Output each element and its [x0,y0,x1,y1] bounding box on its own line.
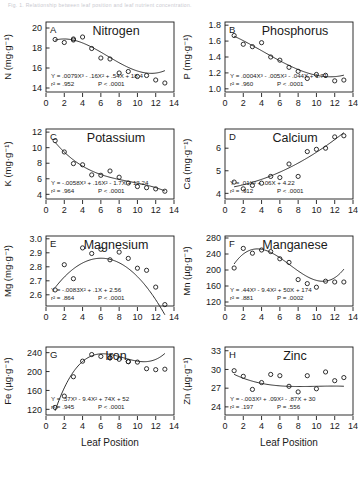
svg-text:P = .556: P = .556 [277,403,301,410]
panel-c-potassium: 468101202468101214CPotassiumK (mg·g⁻¹)Y … [0,123,179,230]
svg-text:0: 0 [222,421,227,431]
svg-text:4: 4 [259,312,264,322]
svg-text:2: 2 [62,312,67,322]
svg-text:2.6: 2.6 [29,290,42,300]
panel-grid: 1416182002468101214ANitrogenN (mg·g⁻¹)Y … [0,16,358,488]
svg-text:12: 12 [151,98,161,108]
svg-text:30: 30 [211,365,221,375]
svg-text:12: 12 [151,312,161,322]
chart-d: 45602468101214DCalciumCa (mg·g⁻¹)Y = .01… [179,123,358,230]
svg-text:2: 2 [62,98,67,108]
svg-text:8: 8 [296,205,301,215]
svg-text:6: 6 [98,421,103,431]
svg-text:4: 4 [259,98,264,108]
svg-text:8: 8 [117,205,122,215]
svg-text:Nitrogen: Nitrogen [92,24,139,38]
svg-text:P < .0001: P < .0001 [98,187,125,194]
panel-f-manganese: 12016020024028002468101214FManganeseMn (… [179,230,358,337]
chart-f: 12016020024028002468101214FManganeseMn (… [179,230,358,337]
panel-e-magnesium: 2.62.72.82.93.002468101214EMagnesiumMg (… [0,230,179,337]
svg-text:Y = .0004X³ - .005X² - .044X +: Y = .0004X³ - .005X² - .044X + 1.71 [230,72,328,79]
svg-text:0: 0 [43,98,48,108]
svg-text:14: 14 [348,312,358,322]
svg-text:Y = -.003X³ + .09X² - .87X + 3: Y = -.003X³ + .09X² - .87X + 30 [230,395,316,402]
svg-text:14: 14 [348,98,358,108]
chart-a: 1416182002468101214ANitrogenN (mg·g⁻¹)Y … [0,16,179,123]
svg-text:10: 10 [311,205,321,215]
svg-text:4: 4 [37,190,42,200]
svg-text:1.2: 1.2 [208,68,221,78]
svg-text:Leaf Position: Leaf Position [260,437,318,448]
svg-text:8: 8 [117,421,122,431]
svg-text:120: 120 [27,405,42,415]
svg-text:2: 2 [241,98,246,108]
svg-text:8: 8 [37,158,42,168]
svg-text:160: 160 [206,281,221,291]
svg-text:Fe (µg·g⁻¹): Fe (µg·g⁻¹) [2,357,13,404]
svg-text:14: 14 [169,205,179,215]
svg-text:8: 8 [296,312,301,322]
chart-g: 12016020024002468101214GIronFe (µg·g⁻¹)Y… [0,341,179,448]
svg-text:24: 24 [211,402,221,412]
svg-text:12: 12 [330,205,340,215]
svg-text:D: D [229,131,236,142]
svg-text:r² = .960: r² = .960 [230,80,254,87]
svg-text:16: 16 [32,63,42,73]
svg-text:F: F [229,238,235,249]
svg-text:4: 4 [80,312,85,322]
svg-text:1.8: 1.8 [208,20,221,30]
svg-text:4: 4 [259,421,264,431]
svg-text:8: 8 [117,98,122,108]
svg-text:P < .0001: P < .0001 [98,294,125,301]
svg-text:240: 240 [206,249,221,259]
svg-text:6: 6 [277,98,282,108]
svg-text:10: 10 [32,143,42,153]
svg-text:120: 120 [206,297,221,307]
panel-g-iron: 12016020024002468101214GIronFe (µg·g⁻¹)Y… [0,341,179,448]
svg-text:4: 4 [216,189,221,199]
figure-root: Fig. 1. Relationship between leaf positi… [0,0,358,488]
svg-text:6: 6 [98,205,103,215]
svg-text:6: 6 [98,98,103,108]
svg-text:10: 10 [311,98,321,108]
svg-text:r² = .197: r² = .197 [230,403,254,410]
svg-text:Zinc: Zinc [283,349,307,363]
svg-text:Zn (µg·g⁻¹): Zn (µg·g⁻¹) [181,357,192,404]
svg-text:10: 10 [132,421,142,431]
svg-text:Calcium: Calcium [272,131,317,145]
svg-text:20: 20 [32,23,42,33]
svg-text:K (mg·g⁻¹): K (mg·g⁻¹) [2,141,13,186]
svg-text:6: 6 [37,174,42,184]
svg-text:H: H [229,349,236,360]
svg-text:8: 8 [296,98,301,108]
svg-text:14: 14 [348,205,358,215]
svg-text:33: 33 [211,346,221,356]
svg-text:Y = .0079X³ - .16X² + .54X + 1: Y = .0079X³ - .16X² + .54X + 18.4 [51,72,143,79]
svg-text:6: 6 [277,421,282,431]
svg-text:4: 4 [80,421,85,431]
svg-text:6: 6 [216,143,221,153]
svg-text:4: 4 [259,205,264,215]
svg-text:6: 6 [277,312,282,322]
svg-text:14: 14 [169,98,179,108]
svg-text:1.6: 1.6 [208,36,221,46]
svg-text:12: 12 [151,205,161,215]
chart-e: 2.62.72.82.93.002468101214EMagnesiumMg (… [0,230,179,337]
svg-text:N (mg·g⁻¹): N (mg·g⁻¹) [2,34,13,80]
svg-text:14: 14 [348,421,358,431]
svg-text:10: 10 [132,312,142,322]
svg-text:280: 280 [206,233,221,243]
svg-text:P (mg·g⁻¹): P (mg·g⁻¹) [181,35,192,80]
svg-text:r² = .964: r² = .964 [51,187,75,194]
svg-text:1.0: 1.0 [208,84,221,94]
svg-text:P = .0002: P = .0002 [277,294,304,301]
svg-text:P < .0001: P < .0001 [98,80,125,87]
svg-text:4: 4 [80,98,85,108]
svg-text:0: 0 [43,205,48,215]
svg-text:2.7: 2.7 [29,276,42,286]
svg-text:0: 0 [222,205,227,215]
svg-text:2: 2 [62,205,67,215]
svg-text:Y = .37X³ - 9.4X² + 74X + 52: Y = .37X³ - 9.4X² + 74X + 52 [51,395,130,402]
panel-b-phosphorus: 1.01.21.41.61.802468101214BPhosphorusP (… [179,16,358,123]
svg-text:10: 10 [132,205,142,215]
